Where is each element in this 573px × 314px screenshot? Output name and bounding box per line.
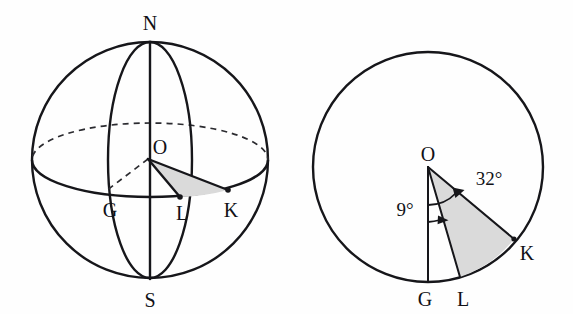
figure-root: N S O G L K O G L K 9° 32° [0, 0, 573, 314]
angle-label-32deg: 32° [476, 168, 503, 189]
label-greenwich-2d: G [418, 288, 432, 310]
label-point-l-2d: L [457, 288, 469, 310]
label-center-o-2d: O [421, 143, 435, 165]
right-circle-diagram: O G L K 9° 32° [0, 0, 573, 314]
angle-label-9deg: 9° [396, 199, 413, 220]
point-marker-k-2d [511, 236, 516, 241]
label-point-k-2d: K [520, 242, 535, 264]
